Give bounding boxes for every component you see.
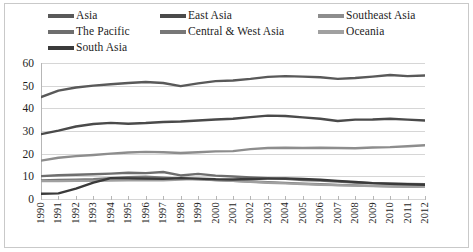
x-axis-tickmark [285, 196, 286, 200]
legend-swatch-icon [160, 14, 186, 18]
x-axis-tickmark [373, 196, 374, 200]
x-axis-tickmark [58, 196, 59, 200]
x-axis-tickmark [76, 196, 77, 200]
y-axis-tick-label: 10 [23, 170, 35, 182]
legend-swatch-icon [48, 46, 74, 50]
x-axis-tick-label: 2010 [384, 202, 395, 224]
x-axis-tick-label: 1996 [140, 202, 151, 224]
legend-swatch-icon [48, 14, 74, 18]
y-axis-tick-label: 50 [23, 80, 35, 92]
legend-swatch-icon [318, 30, 344, 34]
x-axis-tick-label: 2004 [279, 202, 290, 224]
x-axis-tickmark [198, 196, 199, 200]
line-chart-series [41, 63, 425, 199]
legend-swatch-icon [318, 14, 344, 18]
legend-label: Southeast Asia [346, 10, 415, 22]
x-axis-tick-label: 1993 [87, 202, 98, 224]
x-axis-tick-label: 2002 [244, 202, 255, 224]
y-axis-tick-label: 0 [28, 193, 34, 205]
x-axis-tickmark [93, 196, 94, 200]
x-axis-tick-label: 1999 [192, 202, 203, 224]
legend-swatch-icon [160, 30, 186, 34]
x-axis-tick-label: 2011 [402, 202, 413, 223]
x-axis-tickmark [390, 196, 391, 200]
legend-item[interactable]: South Asia [48, 42, 127, 54]
x-axis-tickmark [128, 196, 129, 200]
x-axis: 1990199119921993199419951996199719981999… [41, 200, 425, 248]
x-axis-tickmark [233, 196, 234, 200]
legend-label: Oceania [346, 26, 384, 38]
series-line [41, 75, 425, 97]
x-axis-tickmark [41, 196, 42, 200]
x-axis-tick-label: 1994 [105, 202, 116, 224]
x-axis-tick-label: 2006 [314, 202, 325, 224]
legend-label: South Asia [76, 42, 127, 54]
plot-area [41, 63, 425, 199]
x-axis-tickmark [146, 196, 147, 200]
x-axis-tick-label: 2009 [367, 202, 378, 224]
legend-label: East Asia [188, 10, 232, 22]
chart-screenshot: AsiaEast AsiaSoutheast AsiaThe PacificCe… [0, 0, 473, 252]
x-axis-tickmark [355, 196, 356, 200]
legend-item[interactable]: Oceania [318, 26, 384, 38]
x-axis-tick-label: 1997 [157, 202, 168, 224]
x-axis-tick-label: 1991 [52, 202, 63, 224]
series-line [41, 145, 425, 160]
x-axis-tick-label: 2012 [419, 202, 430, 224]
legend-label: Asia [76, 10, 97, 22]
x-axis-tickmark [250, 196, 251, 200]
chart-legend: AsiaEast AsiaSoutheast AsiaThe PacificCe… [8, 10, 464, 56]
x-axis-tickmark [163, 196, 164, 200]
x-axis-tick-label: 2001 [227, 202, 238, 224]
x-axis-tickmark [408, 196, 409, 200]
x-axis-tickmark [425, 196, 426, 200]
y-axis: 0102030405060 [0, 63, 37, 199]
legend-item[interactable]: Central & West Asia [160, 26, 284, 38]
x-axis-tickmark [111, 196, 112, 200]
x-axis-tickmark [268, 196, 269, 200]
x-axis-tick-label: 1992 [70, 202, 81, 224]
legend-item[interactable]: Asia [48, 10, 97, 22]
x-axis-tickmark [216, 196, 217, 200]
legend-label: The Pacific [76, 26, 130, 38]
legend-item[interactable]: East Asia [160, 10, 232, 22]
x-axis-tick-label: 1995 [122, 202, 133, 224]
x-axis-tick-label: 1990 [35, 202, 46, 224]
x-axis-tick-label: 2000 [210, 202, 221, 224]
legend-label: Central & West Asia [188, 26, 284, 38]
x-axis-tick-label: 1998 [175, 202, 186, 224]
y-axis-tick-label: 30 [23, 125, 35, 137]
legend-swatch-icon [48, 30, 74, 34]
y-axis-tick-label: 40 [23, 102, 35, 114]
legend-item[interactable]: The Pacific [48, 26, 130, 38]
x-axis-tickmark [338, 196, 339, 200]
x-axis-tick-label: 2003 [262, 202, 273, 224]
x-axis-tick-label: 2007 [332, 202, 343, 224]
x-axis-tick-label: 2005 [297, 202, 308, 224]
series-line [41, 116, 425, 135]
y-axis-tick-label: 60 [23, 57, 35, 69]
x-axis-tickmark [303, 196, 304, 200]
y-axis-tick-label: 20 [23, 148, 35, 160]
legend-item[interactable]: Southeast Asia [318, 10, 415, 22]
x-axis-tickmark [320, 196, 321, 200]
x-axis-tick-label: 2008 [349, 202, 360, 224]
x-axis-tickmark [181, 196, 182, 200]
